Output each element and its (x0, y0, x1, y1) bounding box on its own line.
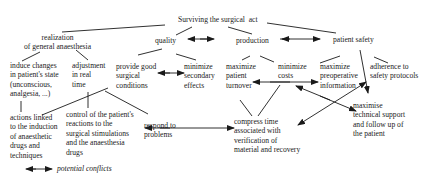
node-minimize-costs: minimize costs (278, 62, 307, 81)
conflict-safety-support (360, 50, 368, 93)
node-patient-safety: patient safety (333, 35, 374, 44)
node-quality: quality (155, 36, 176, 45)
node-minimize-effects: minimize secondary effects (184, 62, 215, 90)
conflict-compress-info (360, 82, 366, 86)
node-actions-induction: actions linked to the induction of anaes… (10, 113, 58, 160)
edge-root-safety (267, 23, 336, 33)
edge-quality-minimize (176, 54, 196, 60)
edge-root-anaesthesia (62, 25, 165, 32)
node-control-reactions: control of the patient's reactions to th… (66, 110, 134, 157)
edge-turnover-compress (240, 100, 252, 116)
edge-production-turnover (242, 56, 250, 60)
node-maximize-turnover: maximize patient turnover (226, 62, 256, 90)
node-anaesthesia: realization of general anaesthesia (24, 33, 91, 52)
conflict-costs-support (320, 96, 356, 111)
legend-label: potential conflicts (57, 164, 112, 173)
edge-production-costs (260, 56, 274, 62)
node-production: production (236, 36, 269, 45)
edge-root-quality (176, 27, 192, 35)
diagram-canvas: Surviving the surgical act realization o… (0, 0, 432, 179)
edge-anaesthesia-induce (22, 52, 40, 61)
node-adjustment: adjustment in real time (72, 61, 105, 89)
node-provide-conditions: provide good surgical conditions (116, 62, 156, 90)
node-compress-time: compress time associated with verificati… (234, 117, 300, 155)
node-maximize-info: maximize preoperative information (320, 62, 358, 90)
conflict-info-compress (298, 86, 360, 125)
node-technical-support: maximise technical support and follow up… (353, 101, 405, 139)
edges-layer (0, 0, 432, 179)
edge-root-production (228, 27, 252, 34)
edge-costs-compress (258, 85, 280, 116)
node-induce-changes: induce changes in patient's state (uncon… (10, 61, 59, 99)
node-adherence: adherence to safety protocols (370, 62, 418, 81)
node-root: Surviving the surgical act (178, 15, 258, 24)
edge-quality-provide (138, 49, 162, 55)
node-respond-problems: respond to problems (144, 121, 176, 140)
